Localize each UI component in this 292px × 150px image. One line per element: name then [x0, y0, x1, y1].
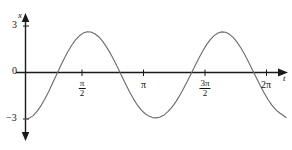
plot-area — [0, 0, 292, 150]
fraction-pi-over-2: π 2 — [79, 79, 86, 98]
y-tick-label-3: 3 — [12, 20, 17, 30]
x-tick-label-2pi: 2π — [261, 80, 271, 90]
x-tick-label-pi-over-2: π 2 — [79, 79, 86, 98]
x-axis-label: t — [283, 74, 286, 83]
curve-cosine — [26, 32, 287, 119]
x-tick-label-pi: π — [141, 80, 146, 90]
y-tick-label-0: 0 — [12, 66, 17, 76]
chart-canvas: x t 3 0 −3 π 2 π 3π 2 2π — [0, 0, 292, 150]
y-axis — [22, 13, 30, 141]
x-tick-label-3pi-over-2: 3π 2 — [199, 79, 210, 98]
fraction-denominator: 2 — [199, 89, 210, 98]
fraction-denominator: 2 — [79, 89, 86, 98]
y-axis-label: x — [18, 11, 22, 20]
y-tick-label-minus-3: −3 — [6, 113, 17, 123]
fraction-3pi-over-2: 3π 2 — [199, 79, 210, 98]
